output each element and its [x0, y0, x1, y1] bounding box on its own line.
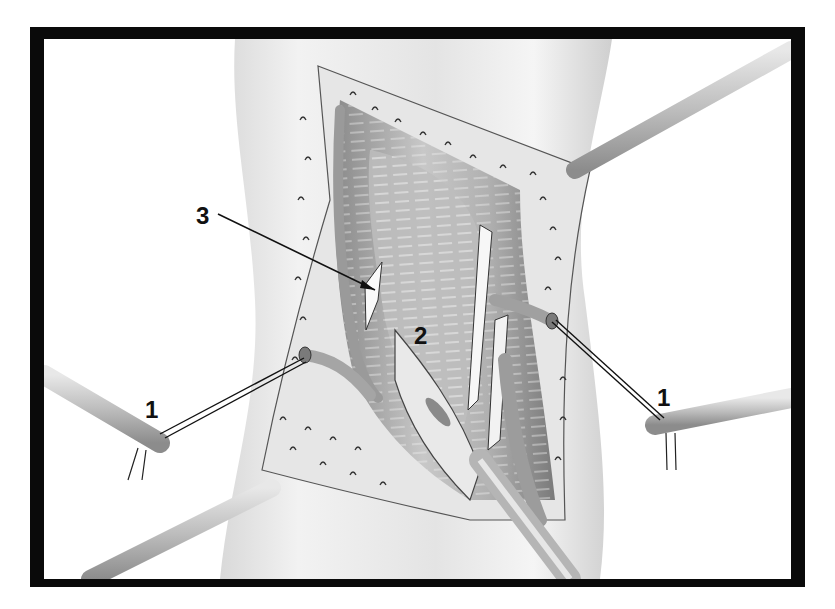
retractor-top-right	[575, 50, 791, 170]
suture-holder-right	[655, 398, 791, 470]
label-1-left: 1	[145, 396, 158, 423]
illustration-canvas: 3 2 1 1	[44, 39, 791, 579]
surgical-illustration: 3 2 1 1	[44, 39, 791, 579]
suture-holder-left	[44, 375, 160, 480]
label-1-right: 1	[657, 384, 670, 411]
figure-frame: 3 2 1 1	[30, 27, 805, 587]
label-2: 2	[414, 322, 427, 349]
label-3: 3	[196, 202, 209, 229]
vessel-stump-left	[299, 347, 311, 363]
